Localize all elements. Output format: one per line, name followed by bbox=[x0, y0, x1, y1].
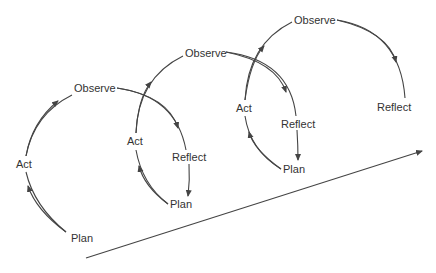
cycle1-act-to-observe-arc bbox=[26, 95, 72, 156]
cycle3-plan-to-act-arrowhead bbox=[249, 132, 281, 169]
cycle1-observe-to-reflect-arrowhead bbox=[117, 88, 178, 128]
cycle2-plan-to-act-arrowhead bbox=[139, 166, 168, 204]
cycle1-observe-label: Observe bbox=[74, 82, 116, 94]
cycle1-reflect-label: Reflect bbox=[172, 151, 206, 163]
progress-arrow bbox=[86, 151, 422, 258]
cycle3-observe-label: Observe bbox=[294, 14, 336, 26]
cycle1-reflect-to-plan-arc bbox=[188, 164, 189, 196]
cycle1-act-to-observe-arrowhead bbox=[26, 101, 58, 156]
cycle1-plan-to-act-arc bbox=[26, 172, 66, 232]
cycle3-plan-to-act-arc bbox=[245, 116, 281, 169]
cycle2-reflect-label: Reflect bbox=[281, 118, 315, 130]
cycle3-reflect-label: Reflect bbox=[377, 101, 411, 113]
cycle2-act-label: Act bbox=[127, 135, 143, 147]
cycle2-act-to-observe-arrowhead bbox=[136, 82, 151, 133]
cycle2-observe-label: Observe bbox=[185, 47, 227, 59]
cycle3-plan-label: Plan bbox=[283, 163, 305, 175]
cycle3-act-label: Act bbox=[236, 102, 252, 114]
action-research-spiral-diagram: Plan Act Observe Reflect Plan Act Observ… bbox=[0, 0, 436, 273]
cycle1-act-label: Act bbox=[16, 158, 32, 170]
cycle2-reflect-to-plan-arc bbox=[297, 130, 298, 160]
cycle3-observe-to-reflect-arrowhead bbox=[337, 20, 396, 62]
cycle2-plan-label: Plan bbox=[170, 198, 192, 210]
cycle1-plan-label: Plan bbox=[71, 232, 93, 244]
cycle2-plan-to-act-arc bbox=[136, 150, 168, 204]
cycle3-act-to-observe-arrowhead bbox=[245, 46, 264, 100]
